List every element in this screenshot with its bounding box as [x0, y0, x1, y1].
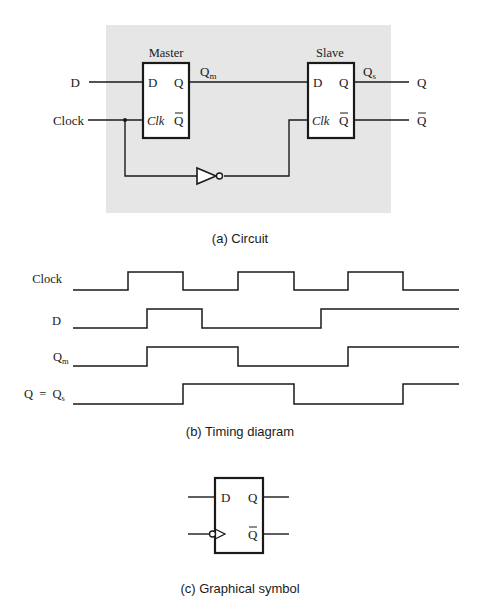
- timing-label-d: D: [52, 314, 61, 328]
- symbol-pin-d: D: [221, 490, 230, 505]
- slave-pin-clk: Clk: [312, 114, 330, 128]
- master-pin-clk: Clk: [147, 114, 165, 128]
- symbol-caption: (c) Graphical symbol: [180, 581, 299, 596]
- waveform-clock: [73, 272, 459, 290]
- master-latch: Master D Q Clk Q: [143, 46, 189, 138]
- graphical-symbol: D Q Q (c) Graphical symbol: [180, 478, 299, 596]
- output-qbar-label: Q: [417, 113, 427, 128]
- slave-pin-d: D: [313, 75, 322, 90]
- timing-diagram: Clock D Qm Q = Qs (b) Timing diagram: [24, 272, 459, 439]
- clock-negation-bubble-icon: [210, 531, 216, 537]
- master-pin-q: Q: [174, 75, 184, 90]
- waveform-d: [73, 309, 459, 328]
- master-title: Master: [149, 46, 185, 60]
- timing-label-clock: Clock: [32, 272, 63, 286]
- slave-pin-qbar: Q: [339, 113, 349, 128]
- symbol-pin-qbar: Q: [248, 527, 258, 542]
- waveform-q: [73, 384, 459, 404]
- output-q-label: Q: [417, 75, 427, 90]
- timing-caption: (b) Timing diagram: [186, 424, 294, 439]
- waveform-qm: [73, 347, 459, 366]
- timing-label-q-qs: Q = Qs: [24, 387, 65, 403]
- slave-pin-q: Q: [339, 75, 349, 90]
- input-d-label: D: [71, 75, 80, 90]
- timing-label-qm: Qm: [53, 350, 69, 366]
- master-pin-d: D: [148, 75, 157, 90]
- master-pin-qbar: Q: [174, 113, 184, 128]
- circuit-diagram: D Clock Master D Q Clk Q Qm Slave: [53, 25, 427, 246]
- figure-canvas: D Clock Master D Q Clk Q Qm Slave: [0, 0, 484, 612]
- input-clock-label: Clock: [53, 113, 85, 128]
- circuit-caption: (a) Circuit: [212, 231, 269, 246]
- slave-title: Slave: [316, 46, 344, 60]
- symbol-pin-q: Q: [248, 490, 258, 505]
